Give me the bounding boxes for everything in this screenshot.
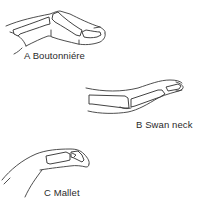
label-swan-neck: B Swan neck — [136, 119, 193, 130]
label-boutonniere: A Boutonniére — [24, 50, 85, 61]
panel-swan-neck: B Swan neck — [0, 70, 202, 140]
label-mallet: C Mallet — [44, 187, 80, 198]
panel-mallet: C Mallet — [0, 140, 202, 210]
panel-boutonniere: A Boutonniére — [0, 0, 202, 70]
mallet-finger-drawing — [0, 140, 202, 210]
